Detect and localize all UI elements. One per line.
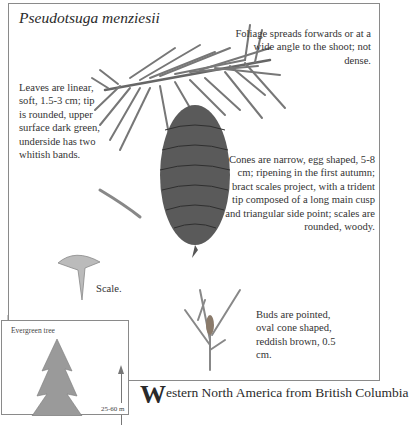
foliage-description: Foliage spreads forwards or at a wide an…: [225, 27, 371, 67]
scale-label: Scale.: [96, 282, 122, 295]
cones-description: Cones are narrow, egg shaped, 5-8 cm; ri…: [225, 153, 375, 233]
height-arrow-line: [121, 373, 122, 403]
tree-icon: [2, 321, 130, 416]
range-text: Western North America from British Colum…: [140, 385, 409, 405]
leaves-description: Leaves are linear, soft, 1.5-3 cm; tip i…: [19, 81, 101, 161]
tree-silhouette-inset: Evergreen tree 25-60 m: [1, 320, 129, 415]
height-arrow-line-lower: [121, 415, 122, 425]
drop-cap: W: [140, 380, 166, 409]
tree-height-label: 25-60 m: [101, 405, 125, 413]
range-text-body: estern North America from British Columb…: [166, 385, 409, 400]
buds-description: Buds are pointed, oval cone shaped, redd…: [256, 308, 336, 362]
